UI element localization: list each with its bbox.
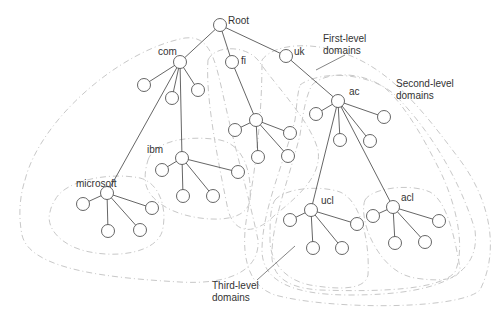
- diagram-canvas: [0, 0, 500, 322]
- label-second-level-line2: domains: [396, 90, 434, 101]
- node-ibm: [176, 152, 189, 165]
- node-ac-child: [334, 134, 347, 147]
- label-ucl: ucl: [321, 195, 334, 206]
- node-acl-child: [433, 215, 446, 228]
- node-com: [174, 56, 187, 69]
- region-ac: [272, 75, 460, 291]
- first-level-pointer: [316, 55, 345, 70]
- node-uk: [280, 50, 293, 63]
- label-third-level-line1: Third-level: [212, 280, 259, 291]
- node-microsoft-child: [77, 198, 90, 211]
- node-acl: [387, 201, 400, 214]
- tree-edges: [83, 25, 439, 248]
- node-acl-child: [389, 237, 402, 250]
- node-microsoft-child: [102, 225, 115, 238]
- label-root: Root: [228, 15, 249, 26]
- node-acl-child: [367, 210, 380, 223]
- node-ibm-child: [156, 164, 169, 177]
- tree-nodes: [77, 19, 446, 255]
- label-microsoft: microsoft: [76, 178, 117, 189]
- node-fi-grandchild: [282, 150, 295, 163]
- node-ibm-child: [177, 190, 190, 203]
- node-ucl-child: [336, 242, 349, 255]
- label-fi: fi: [241, 55, 246, 66]
- region-ucl: [270, 188, 368, 288]
- region-fi: [208, 49, 319, 230]
- node-fi-grandchild: [284, 127, 297, 140]
- label-ac: ac: [349, 86, 360, 97]
- node-microsoft-child: [134, 224, 147, 237]
- node-root: [214, 19, 227, 32]
- node-ibm-child: [207, 190, 220, 203]
- node-ac-child: [378, 111, 391, 124]
- label-ibm: ibm: [147, 144, 163, 155]
- node-ucl-child: [307, 242, 320, 255]
- region-uk-inner: [262, 75, 476, 295]
- node-ac: [332, 95, 345, 108]
- node-ac-child: [310, 108, 323, 121]
- label-first-level-line1: First-level: [323, 33, 366, 44]
- node-ibm-child: [232, 166, 245, 179]
- node-ucl-child: [351, 218, 364, 231]
- node-com-child: [166, 92, 179, 105]
- label-uk: uk: [294, 46, 305, 57]
- node-ucl: [305, 204, 318, 217]
- node-fi-grandchild: [252, 151, 265, 164]
- node-ucl-child: [284, 214, 297, 227]
- label-third-level-line2: domains: [212, 292, 250, 303]
- node-fi: [226, 56, 239, 69]
- node-fi-child: [250, 114, 263, 127]
- node-fi-grandchild: [229, 124, 242, 137]
- third-level-pointer: [257, 246, 295, 280]
- node-ac-child: [364, 135, 377, 148]
- dns-tree-diagram: Root com fi uk ibm microsoft ac ucl acl …: [0, 0, 500, 322]
- region-com: [20, 38, 258, 283]
- node-acl-child: [419, 236, 432, 249]
- label-first-level-line2: domains: [323, 45, 361, 56]
- node-com-child: [192, 84, 205, 97]
- label-com: com: [158, 46, 177, 57]
- node-microsoft-child: [146, 202, 159, 215]
- node-com-child: [138, 79, 151, 92]
- label-acl: acl: [401, 192, 414, 203]
- label-second-level-line1: Second-level: [396, 78, 454, 89]
